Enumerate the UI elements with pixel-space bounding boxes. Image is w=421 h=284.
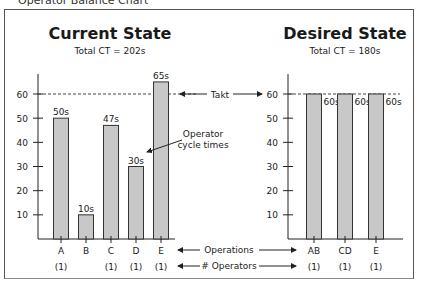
- bar-value-label: 65s: [153, 71, 169, 81]
- category-label: AB: [308, 246, 320, 256]
- bar-e: [154, 82, 169, 239]
- category-label: E: [373, 246, 379, 256]
- operator-cycle-times-label: Operator: [183, 129, 224, 139]
- y-tick-label: 10: [267, 210, 279, 220]
- operations-label: Operations: [204, 245, 254, 255]
- bar-value-label: 47s: [103, 114, 119, 124]
- num-operators-label: # Operators: [201, 261, 257, 271]
- operator-count: (1): [339, 262, 352, 272]
- y-tick-label: 10: [17, 210, 29, 220]
- takt-label: Takt: [210, 90, 230, 100]
- bar-value-label: 10s: [78, 204, 94, 214]
- operator-count: (1): [308, 262, 321, 272]
- y-tick-label: 50: [267, 114, 279, 124]
- bar-value-label: 60s: [386, 97, 402, 107]
- y-tick-label: 30: [17, 162, 29, 172]
- bar-cd: [338, 94, 353, 239]
- desired-state-chart: 10203040506060sAB(1)60sCD(1)60sE(1): [267, 74, 403, 272]
- operator-balance-chart: 10203040506050sA(1)10sB47sC(1)30sD(1)65s…: [0, 0, 421, 284]
- y-tick-label: 60: [267, 90, 279, 100]
- category-label: CD: [338, 246, 351, 256]
- category-label: B: [83, 246, 89, 256]
- bar-b: [79, 215, 94, 239]
- bar-e: [369, 94, 384, 239]
- operator-count: (1): [155, 262, 168, 272]
- bar-a: [54, 118, 69, 239]
- operator-cycle-times-label-2: cycle times: [177, 140, 228, 150]
- y-tick-label: 40: [17, 138, 29, 148]
- bar-ab: [307, 94, 322, 239]
- operator-count: (1): [55, 262, 68, 272]
- y-tick-label: 30: [267, 162, 279, 172]
- category-label: C: [108, 246, 114, 256]
- bar-c: [104, 125, 119, 239]
- bar-d: [129, 167, 144, 240]
- bar-value-label: 30s: [128, 156, 144, 166]
- operator-count: (1): [130, 262, 143, 272]
- bar-value-label: 50s: [53, 107, 69, 117]
- y-tick-label: 20: [267, 186, 279, 196]
- current-state-chart: 10203040506050sA(1)10sB47sC(1)30sD(1)65s…: [17, 71, 197, 272]
- category-label: E: [158, 246, 164, 256]
- y-tick-label: 60: [17, 90, 29, 100]
- category-label: A: [58, 246, 65, 256]
- y-tick-label: 40: [267, 138, 279, 148]
- y-tick-label: 20: [17, 186, 29, 196]
- operator-count: (1): [370, 262, 383, 272]
- operator-count: (1): [105, 262, 118, 272]
- y-tick-label: 50: [17, 114, 29, 124]
- category-label: D: [133, 246, 140, 256]
